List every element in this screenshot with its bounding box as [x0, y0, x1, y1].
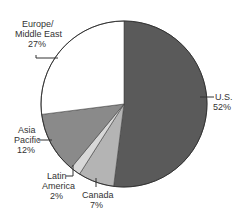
svg-text:52%: 52% [213, 102, 231, 112]
svg-text:Middle East: Middle East [15, 29, 63, 39]
pie-slices [41, 21, 207, 187]
svg-text:Asia: Asia [18, 125, 36, 135]
svg-text:Latin: Latin [47, 171, 67, 181]
svg-text:Canada: Canada [82, 190, 114, 200]
svg-text:America: America [42, 181, 75, 191]
pie-chart: U.S. 52% Canada 7% Latin America 2% Asia… [0, 0, 242, 218]
svg-text:U.S.: U.S. [215, 92, 233, 102]
slice-label-asia-pacific: Asia Pacific 12% [14, 125, 41, 155]
slice-label-canada: Canada 7% [82, 190, 114, 210]
pie-slice-u-s- [114, 21, 207, 187]
svg-text:2%: 2% [50, 191, 63, 201]
svg-text:27%: 27% [28, 39, 46, 49]
slice-label-europe-middle-east: Europe/ Middle East 27% [15, 19, 63, 49]
slice-label-us: U.S. 52% [213, 92, 233, 112]
svg-text:12%: 12% [17, 145, 35, 155]
svg-text:Europe/: Europe/ [22, 19, 54, 29]
svg-text:Pacific: Pacific [14, 135, 41, 145]
svg-text:7%: 7% [90, 200, 103, 210]
